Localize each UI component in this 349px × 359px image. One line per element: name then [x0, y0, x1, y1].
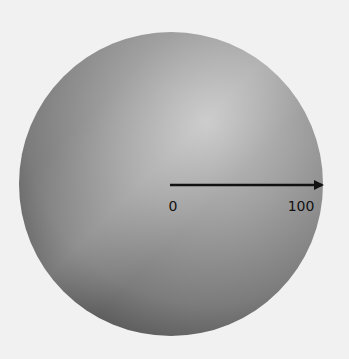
radius-start-label: 0 [169, 198, 178, 214]
radius-end-label: 100 [288, 198, 315, 214]
sphere-diagram: 0 100 [0, 0, 349, 359]
